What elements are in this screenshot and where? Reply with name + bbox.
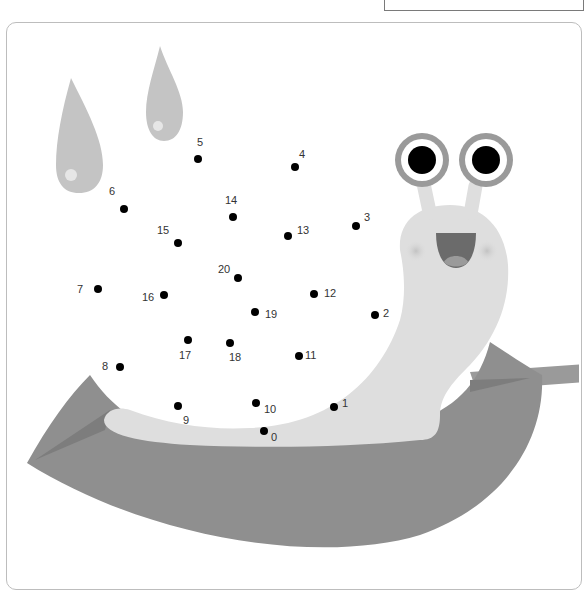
snail-illustration <box>0 0 586 596</box>
dot-12 <box>310 290 318 298</box>
dot-20 <box>234 274 242 282</box>
dot-6 <box>120 205 128 213</box>
dot-5 <box>194 155 202 163</box>
dot-8 <box>116 363 124 371</box>
dot-3 <box>352 222 360 230</box>
dot-label-0: 0 <box>271 432 277 443</box>
dot-15 <box>174 239 182 247</box>
dot-label-18: 18 <box>229 352 241 363</box>
dot-0 <box>260 427 268 435</box>
dot-16 <box>160 291 168 299</box>
dot-label-4: 4 <box>299 149 305 160</box>
dot-14 <box>229 213 237 221</box>
dot-label-16: 16 <box>142 292 154 303</box>
cheek-left <box>405 240 427 262</box>
dot-label-5: 5 <box>197 137 203 148</box>
dot-label-10: 10 <box>264 404 276 415</box>
dot-11 <box>295 352 303 360</box>
dot-label-1: 1 <box>342 398 348 409</box>
dot-9 <box>174 402 182 410</box>
dot-label-20: 20 <box>218 264 230 275</box>
dot-4 <box>291 163 299 171</box>
dot-label-6: 6 <box>109 186 115 197</box>
dot-7 <box>94 285 102 293</box>
dot-13 <box>284 232 292 240</box>
dot-2 <box>371 311 379 319</box>
eye-left-icon <box>395 133 449 187</box>
dot-18 <box>226 339 234 347</box>
dot-label-3: 3 <box>364 212 370 223</box>
raindrop-left-icon <box>56 78 103 193</box>
dot-label-13: 13 <box>297 225 309 236</box>
dot-10 <box>252 399 260 407</box>
dot-17 <box>184 336 192 344</box>
dot-label-17: 17 <box>179 350 191 361</box>
dot-label-11: 11 <box>305 350 316 361</box>
dot-label-7: 7 <box>77 284 83 295</box>
dot-label-19: 19 <box>265 309 277 320</box>
cheek-right <box>476 240 498 262</box>
dot-label-12: 12 <box>324 288 336 299</box>
dot-label-8: 8 <box>102 361 108 372</box>
dot-19 <box>251 308 259 316</box>
dot-1 <box>330 403 338 411</box>
raindrop-right-icon <box>146 46 183 141</box>
dot-label-9: 9 <box>183 415 189 426</box>
dot-label-2: 2 <box>383 308 389 319</box>
dot-label-15: 15 <box>157 225 169 236</box>
eye-right-icon <box>459 133 513 187</box>
dot-label-14: 14 <box>225 195 237 206</box>
